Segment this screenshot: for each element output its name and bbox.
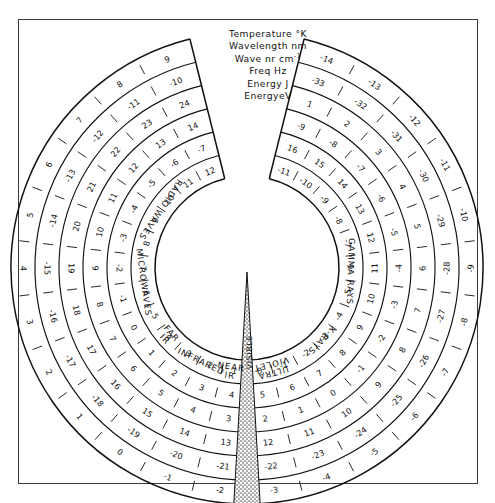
ring-tick — [122, 312, 131, 316]
ring-tick-label: -26 — [416, 353, 431, 369]
ring-tick-label: 5 — [156, 387, 166, 398]
ring-tick — [408, 152, 416, 158]
visible-wedge — [234, 272, 260, 503]
ring-tick — [293, 356, 298, 365]
ring-tick — [204, 434, 206, 444]
ring-tick — [407, 204, 416, 208]
ring-tick-label: -22 — [264, 460, 278, 472]
ring-tick — [174, 129, 179, 138]
ring-tick — [55, 337, 64, 341]
ring-tick — [361, 133, 368, 141]
ring-tick-label: 1 — [231, 365, 237, 376]
ring-tick — [78, 152, 86, 158]
ring-tick-label: 7 — [412, 306, 423, 313]
ring-tick — [43, 292, 53, 293]
band-label-visible: VISIBLE — [245, 335, 254, 369]
ring-tick-label: 9 — [90, 266, 100, 271]
ring-tick — [137, 338, 145, 344]
ring-tick — [305, 150, 310, 159]
ring-tick-label: 0 — [328, 387, 338, 398]
ring-tick-label: 4 — [228, 389, 234, 400]
ring-tick-label: -4 — [332, 310, 345, 322]
ring-tick-label: 15 — [140, 405, 154, 419]
ring-tick-label: 16 — [286, 142, 299, 155]
ring-tick-label: 16 — [109, 377, 123, 391]
ring-tick — [299, 481, 301, 491]
ring-tick — [118, 352, 126, 358]
ring-tick — [392, 432, 399, 440]
ring-tick-label: 19 — [66, 263, 76, 273]
ring-tick-label: 11 — [181, 176, 195, 190]
ring-tick-label: -10 — [298, 175, 315, 191]
ring-tick-label: -1 — [117, 294, 129, 304]
ring-tick-label: -15 — [42, 262, 52, 275]
ring-tick — [452, 187, 461, 191]
ring-tick-label: -11 — [125, 96, 142, 112]
ring-tick — [19, 241, 29, 242]
ring-tick-label: 14 — [186, 120, 199, 133]
ring-tick — [430, 196, 439, 200]
ring-tick — [122, 221, 131, 225]
ring-tick — [55, 196, 64, 200]
ring-tick — [407, 329, 416, 333]
ring-tick — [340, 229, 349, 233]
ring-tick — [151, 86, 156, 95]
ring-tick-label: 2 — [262, 413, 268, 424]
ring-tick — [276, 388, 278, 398]
legend-item-temperature: Temperature °K — [203, 28, 333, 40]
ring-tick-label: 4 — [397, 182, 408, 191]
ring-tick — [327, 108, 332, 117]
ring-tick — [388, 165, 396, 171]
ring-tick — [19, 295, 29, 296]
ring-tick-label: -2 — [114, 264, 124, 272]
ring-tick-label: 12 — [203, 165, 216, 178]
ring-tick-label: 5 — [24, 211, 35, 218]
ring-tick — [91, 249, 101, 250]
ring-tick — [294, 458, 296, 468]
ring-tick — [215, 388, 217, 398]
ring-tick-label: 10 — [94, 226, 106, 239]
ring-tick-label: -27 — [434, 308, 447, 323]
ring-tick — [441, 292, 451, 293]
ring-tick — [465, 295, 475, 296]
ring-tick — [95, 97, 102, 105]
ring-tick-label: 13 — [220, 437, 232, 448]
ring-tick-label: -16 — [47, 308, 60, 323]
ring-tick — [349, 193, 357, 199]
ring-tick — [111, 115, 118, 123]
ring-tick-label: 7 — [138, 266, 148, 271]
ring-tick-label: 5 — [412, 223, 423, 230]
ring-tick — [362, 312, 371, 316]
ring-tick-label: -30 — [416, 167, 431, 183]
ring-tick-label: 17 — [85, 343, 99, 357]
band-labels-group: RADIO WAVESMICROWAVESFARIRINFRAREDNEARIR… — [134, 178, 357, 383]
ring-tick-label: -7 — [196, 143, 207, 155]
ring-tick-label: 1 — [74, 411, 85, 422]
ring-tick-label: -12 — [406, 112, 422, 129]
ring-tick-label: 12 — [365, 231, 377, 244]
ring-tick-label: 12 — [126, 161, 140, 175]
ring-tick-label: -10 — [458, 207, 471, 222]
legend: Temperature °K Wavelength nm Wave nr cm-… — [203, 28, 333, 102]
band-label: RADIO WAVES — [137, 178, 185, 242]
ring-tick — [91, 286, 101, 287]
ring-tick — [329, 206, 337, 212]
ring-tick-label: 22 — [108, 145, 122, 159]
ring-tick-label: 18 — [71, 304, 83, 317]
ring-tick-label: -10 — [168, 75, 184, 89]
ring-tick-label: 1 — [296, 404, 304, 415]
ring-tick — [162, 108, 167, 117]
ring-tick — [185, 377, 190, 386]
ring-tick-label: 10 — [365, 292, 377, 305]
ring-tick-label: -24 — [352, 424, 369, 440]
ring-tick — [388, 365, 396, 371]
ring-tick-label: 11 — [370, 263, 380, 273]
ring-tick — [67, 246, 77, 247]
ring-tick-label: -6 — [168, 157, 180, 170]
ring-tick — [368, 352, 376, 358]
ring-tick — [98, 165, 106, 171]
ring-tick-label: -29 — [434, 213, 447, 228]
ring-tick-label: 7 — [107, 334, 118, 343]
ring-tick — [77, 204, 86, 208]
ring-tick-label: 14 — [178, 426, 191, 439]
